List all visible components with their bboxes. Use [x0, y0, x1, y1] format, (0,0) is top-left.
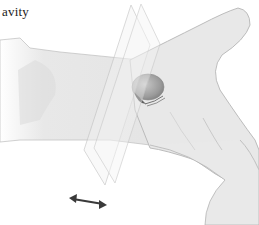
lower-leg-shape — [150, 140, 259, 225]
double-arrow-icon — [69, 194, 107, 209]
anatomy-illustration — [0, 0, 259, 225]
